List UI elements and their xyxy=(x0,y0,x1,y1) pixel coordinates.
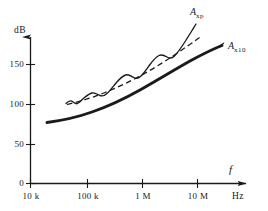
curve-label-a-x10-sub: x10 xyxy=(234,46,246,54)
curve-a-xp xyxy=(66,24,196,104)
y-tick-label-150: 150 xyxy=(0,59,24,69)
curve-label-a-xp: Axp xyxy=(190,6,204,20)
x-tick-label-1m: 1 M xyxy=(123,191,163,201)
x-tick-label-10k: 10 k xyxy=(11,191,51,201)
y-tick-label-100: 100 xyxy=(0,99,24,109)
x-axis-unit-label: Hz xyxy=(232,191,244,201)
y-tick-label-0: 0 xyxy=(0,178,24,188)
y-axis-unit-label: dB xyxy=(14,25,26,35)
x-tick-label-100k: 100 k xyxy=(68,191,108,201)
x-tick-label-10m: 10 M xyxy=(178,191,218,201)
y-tick-label-50: 50 xyxy=(0,139,24,149)
x-axis-variable-label: f xyxy=(229,163,232,175)
curve-label-a-x10: Ax10 xyxy=(228,40,246,54)
chart-figure: dB 150 100 50 0 10 k 100 k 1 M 10 M f Hz… xyxy=(0,0,268,211)
curve-label-a-xp-sub: xp xyxy=(196,12,204,20)
curve-a-x10 xyxy=(47,46,222,123)
chart-plot-area xyxy=(0,0,268,211)
